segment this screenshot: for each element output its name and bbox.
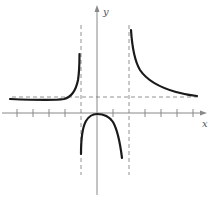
y-axis-arrow-icon <box>95 5 100 12</box>
y-axis-label: y <box>102 6 109 17</box>
left-branch <box>10 54 80 100</box>
middle-branch <box>81 114 122 158</box>
right-branch <box>131 30 197 96</box>
x-axis-arrow-icon <box>200 111 207 116</box>
x-axis-label: x <box>202 118 208 129</box>
function-graph: x y <box>0 0 214 200</box>
curve <box>10 30 197 158</box>
